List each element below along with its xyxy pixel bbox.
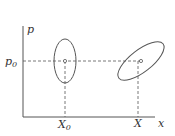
x0-label: X0 xyxy=(57,118,71,132)
p0-label: p0 xyxy=(5,55,17,69)
x-label: X xyxy=(133,117,143,130)
initial-center-point xyxy=(63,59,66,62)
phase-space-diagram: p x p0 X0 X xyxy=(0,0,175,136)
diagram-canvas: p x p0 X0 X xyxy=(0,0,175,136)
y-axis-label: p xyxy=(27,23,34,36)
evolved-center-point xyxy=(139,59,142,62)
x-axis-label: x xyxy=(158,117,165,130)
